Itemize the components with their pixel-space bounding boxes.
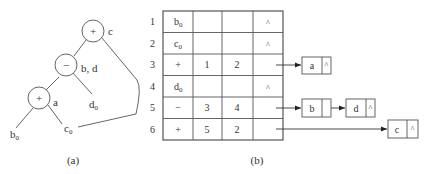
- null-pointer-1: ^: [266, 19, 270, 28]
- node-label-a: a: [53, 96, 58, 108]
- list-node-b-name: b: [310, 103, 315, 114]
- node-op-c: +: [90, 25, 96, 37]
- cell-3-2: 1: [205, 59, 210, 70]
- cell-2-1: c0: [174, 38, 182, 51]
- edge-minus-to-d0: [72, 72, 92, 94]
- cell-5-3: 4: [235, 102, 240, 113]
- cell-3-3: 2: [235, 59, 240, 70]
- leaf-b0: b0: [10, 128, 20, 142]
- cell-6-1: +: [175, 124, 181, 135]
- node-op-a: +: [36, 92, 42, 104]
- row-index-1: 1: [150, 16, 155, 27]
- list-node-c-name: c: [395, 124, 400, 135]
- leaf-d0: d0: [89, 98, 99, 112]
- node-table: [163, 11, 283, 140]
- dag-figure-a: [16, 20, 139, 128]
- edge-c-to-minus: [74, 40, 86, 56]
- row-index-3: 3: [150, 59, 155, 70]
- row-index-6: 6: [150, 124, 155, 135]
- node-label-bd: b, d: [81, 62, 98, 74]
- list-node-d-name: d: [354, 103, 359, 114]
- leaf-c0: c0: [64, 122, 73, 136]
- edge-minus-to-plus: [46, 77, 59, 90]
- caption-a: (a): [67, 154, 80, 167]
- node-op-bd: −: [63, 59, 69, 71]
- row-index-4: 4: [150, 81, 155, 92]
- node-label-c: c: [108, 25, 113, 37]
- caption-b: (b): [251, 154, 264, 167]
- list-node-b: [302, 99, 331, 117]
- row-index-5: 5: [150, 102, 155, 113]
- edge-plus-to-b0: [16, 108, 33, 128]
- cell-6-3: 2: [235, 124, 240, 135]
- cell-5-1: −: [175, 102, 181, 113]
- cell-3-1: +: [175, 59, 181, 70]
- cell-1-1: b0: [174, 16, 183, 29]
- list-node-a-null: ^: [325, 61, 329, 70]
- cell-5-2: 3: [205, 102, 210, 113]
- cell-6-2: 5: [205, 124, 210, 135]
- row-index-2: 2: [150, 38, 155, 49]
- list-node-d-null: ^: [369, 104, 373, 113]
- cell-4-1: d0: [174, 81, 183, 94]
- null-pointer-4: ^: [266, 84, 270, 93]
- edge-c-to-c0: [78, 38, 139, 127]
- dag-diagram: + c − b, d + a b0 c0 d0 (a) 1 2 3 4 5 6 …: [0, 0, 428, 174]
- null-pointer-2: ^: [266, 41, 270, 50]
- list-node-a-name: a: [310, 60, 315, 71]
- list-node-c-null: ^: [411, 125, 415, 134]
